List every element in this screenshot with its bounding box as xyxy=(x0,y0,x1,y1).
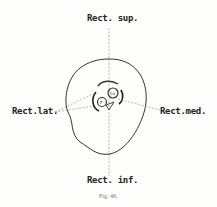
svg-text:P: P xyxy=(100,100,103,105)
label-rect-med: Rect.med. xyxy=(160,106,206,116)
figure-caption: Fig. 46. xyxy=(99,193,118,199)
svg-text:Co: Co xyxy=(110,91,115,96)
label-rect-lat: Rect.lat. xyxy=(12,106,58,116)
figure: Co P Rect. sup. Rect. inf. Rect.lat. Rec… xyxy=(0,0,217,207)
label-rect-inf: Rect. inf. xyxy=(87,175,138,185)
label-rect-sup: Rect. sup. xyxy=(87,13,138,23)
